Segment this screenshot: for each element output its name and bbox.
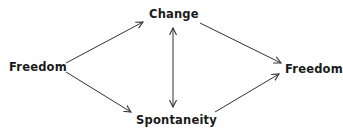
arrow-freedom-to-change xyxy=(66,22,143,63)
arrow-change-to-freedom xyxy=(200,23,281,63)
node-freedom-start: Freedom xyxy=(9,60,67,74)
arrow-freedom-to-spontaneity xyxy=(66,72,131,112)
diagram-canvas: Freedom Change Spontaneity Freedom xyxy=(0,0,343,133)
node-change: Change xyxy=(149,7,199,21)
node-freedom-end: Freedom xyxy=(285,62,343,76)
node-spontaneity: Spontaneity xyxy=(136,113,217,127)
arrow-spontaneity-to-freedom xyxy=(215,74,279,112)
